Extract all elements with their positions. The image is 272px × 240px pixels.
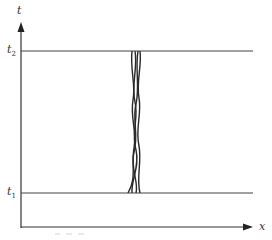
spacetime-diagram: t x t2 t1 [0, 0, 272, 240]
diagram-graphic [0, 0, 272, 240]
x-axis-arrowhead-icon [243, 224, 253, 231]
x-axis [21, 224, 253, 231]
x-axis-label: x [259, 221, 265, 232]
t2-label: t2 [7, 44, 16, 58]
t-axis [18, 22, 25, 228]
t-axis-label: t [17, 5, 21, 16]
t-axis-arrowhead-icon [18, 22, 25, 32]
string-worldsheet [128, 51, 140, 193]
t1-label: t1 [7, 186, 16, 200]
